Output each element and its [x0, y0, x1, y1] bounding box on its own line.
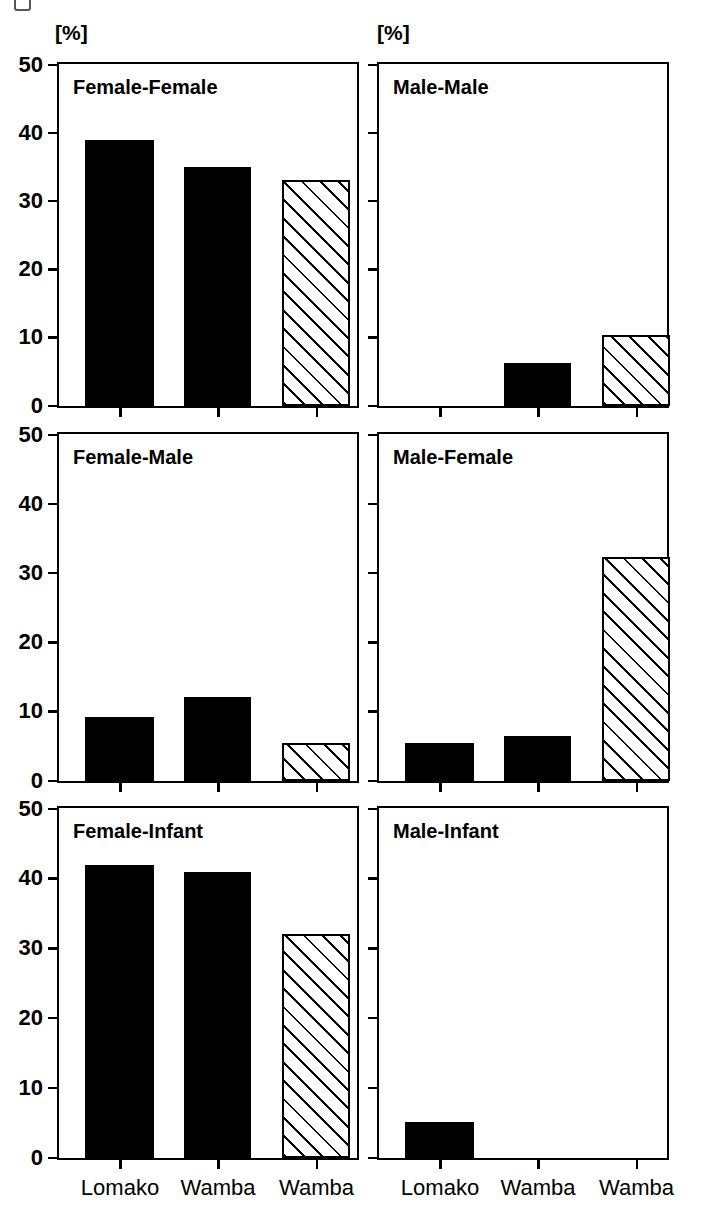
bar-female-male-wamba-2 — [184, 697, 251, 781]
x-tick-female-infant-1 — [217, 1160, 220, 1169]
x-tick-female-male-2 — [316, 783, 319, 792]
y-tick-male-female-0 — [368, 780, 377, 783]
y-tick-female-male-10 — [48, 710, 57, 713]
panel-female-infant: Female-Infant — [57, 806, 359, 1160]
y-tick-label-female-female-40: 40 — [0, 122, 43, 144]
x-tick-male-female-0 — [439, 783, 442, 792]
y-tick-male-infant-10 — [368, 1087, 377, 1090]
bar-female-male-wamba-3 — [282, 743, 350, 781]
y-tick-label-female-female-20: 20 — [0, 258, 43, 280]
x-tick-male-female-2 — [636, 783, 639, 792]
y-tick-female-male-0 — [48, 780, 57, 783]
x-tick-male-male-2 — [636, 408, 639, 417]
y-tick-label-female-male-10: 10 — [0, 700, 43, 722]
y-tick-female-female-40 — [48, 132, 57, 135]
x-tick-male-male-1 — [537, 408, 540, 417]
y-tick-female-infant-0 — [48, 1157, 57, 1160]
panel-female-female: Female-Female — [57, 62, 359, 408]
bar-female-female-wamba-3 — [282, 180, 350, 406]
x-tick-male-infant-1 — [537, 1160, 540, 1169]
y-tick-label-female-male-20: 20 — [0, 631, 43, 653]
y-tick-label-female-female-0: 0 — [0, 395, 43, 417]
y-tick-label-female-male-0: 0 — [0, 770, 43, 792]
y-tick-label-female-female-30: 30 — [0, 190, 43, 212]
y-tick-female-infant-50 — [48, 808, 57, 811]
bar-male-infant-lomako-1 — [405, 1122, 474, 1158]
panel-female-male: Female-Male — [57, 432, 359, 783]
y-tick-male-infant-0 — [368, 1157, 377, 1160]
x-tick-male-infant-2 — [636, 1160, 639, 1169]
y-tick-male-female-30 — [368, 572, 377, 575]
y-tick-female-male-50 — [48, 434, 57, 437]
bar-male-male-wamba-3 — [602, 335, 670, 406]
bar-female-female-lomako-1 — [85, 140, 154, 406]
y-tick-male-male-40 — [368, 132, 377, 135]
y-tick-female-female-50 — [48, 64, 57, 67]
y-tick-male-female-50 — [368, 434, 377, 437]
y-tick-male-female-10 — [368, 710, 377, 713]
y-tick-label-female-infant-50: 50 — [0, 798, 43, 820]
bar-female-infant-lomako-1 — [85, 865, 154, 1158]
x-tick-female-male-0 — [119, 783, 122, 792]
panel-male-male: Male-Male — [377, 62, 669, 408]
y-tick-label-female-male-30: 30 — [0, 562, 43, 584]
y-tick-male-infant-20 — [368, 1017, 377, 1020]
y-tick-female-female-30 — [48, 200, 57, 203]
y-tick-female-infant-20 — [48, 1017, 57, 1020]
y-axis-unit-label-left: [%] — [55, 22, 88, 43]
bar-female-infant-wamba-3 — [282, 934, 350, 1158]
y-tick-label-female-male-40: 40 — [0, 493, 43, 515]
bar-male-female-wamba-2 — [504, 736, 571, 781]
x-tick-male-infant-0 — [439, 1160, 442, 1169]
plot-area-male-infant — [379, 808, 667, 1158]
y-tick-male-infant-40 — [368, 877, 377, 880]
y-tick-label-female-infant-0: 0 — [0, 1147, 43, 1169]
panel-male-infant: Male-Infant — [377, 806, 669, 1160]
plot-area-male-female — [379, 434, 667, 781]
panel-male-female: Male-Female — [377, 432, 669, 783]
y-tick-female-female-10 — [48, 336, 57, 339]
x-tick-female-female-1 — [217, 408, 220, 417]
plot-area-male-male — [379, 64, 667, 406]
x-tick-female-male-1 — [217, 783, 220, 792]
y-tick-label-female-infant-30: 30 — [0, 937, 43, 959]
x-category-label-male-infant-2: Wamba — [577, 1177, 697, 1199]
x-category-label-female-infant-2: Wamba — [257, 1177, 377, 1199]
x-tick-male-female-1 — [537, 783, 540, 792]
y-tick-label-female-infant-10: 10 — [0, 1077, 43, 1099]
bar-chart-figure: [%] [%] Female-Female01020304050Male-Mal… — [0, 0, 705, 1227]
y-tick-female-female-20 — [48, 268, 57, 271]
y-tick-male-male-10 — [368, 336, 377, 339]
y-tick-female-female-0 — [48, 405, 57, 408]
plot-area-female-male — [59, 434, 357, 781]
y-tick-female-male-30 — [48, 572, 57, 575]
y-tick-male-infant-30 — [368, 947, 377, 950]
y-tick-label-female-infant-40: 40 — [0, 867, 43, 889]
y-tick-label-female-infant-20: 20 — [0, 1007, 43, 1029]
x-tick-female-female-0 — [119, 408, 122, 417]
y-tick-female-infant-10 — [48, 1087, 57, 1090]
y-tick-male-infant-50 — [368, 808, 377, 811]
bar-male-female-lomako-1 — [405, 743, 474, 781]
x-tick-female-infant-0 — [119, 1160, 122, 1169]
bar-female-male-lomako-1 — [85, 717, 154, 781]
y-tick-male-male-50 — [368, 64, 377, 67]
y-tick-male-male-30 — [368, 200, 377, 203]
plot-area-female-female — [59, 64, 357, 406]
x-tick-female-female-2 — [316, 408, 319, 417]
y-tick-label-female-female-10: 10 — [0, 326, 43, 348]
y-tick-male-female-20 — [368, 641, 377, 644]
y-tick-label-female-female-50: 50 — [0, 54, 43, 76]
bar-female-infant-wamba-2 — [184, 872, 251, 1158]
y-tick-female-male-40 — [48, 503, 57, 506]
bar-female-female-wamba-2 — [184, 167, 251, 406]
plot-area-female-infant — [59, 808, 357, 1158]
y-tick-label-female-male-50: 50 — [0, 424, 43, 446]
x-tick-male-male-0 — [439, 408, 442, 417]
y-tick-male-female-40 — [368, 503, 377, 506]
bar-male-male-wamba-2 — [504, 363, 571, 406]
y-tick-female-infant-40 — [48, 877, 57, 880]
y-tick-male-male-20 — [368, 268, 377, 271]
bar-male-female-wamba-3 — [602, 557, 670, 781]
y-axis-unit-label-right: [%] — [377, 22, 410, 43]
